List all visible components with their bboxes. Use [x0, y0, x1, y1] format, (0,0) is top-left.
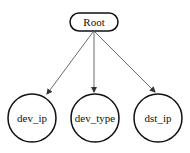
edge-root-dev-ip — [47, 32, 93, 94]
node-dev-type[interactable]: dev_type — [71, 94, 119, 142]
node-dev-ip[interactable]: dev_ip — [8, 94, 56, 142]
tree-diagram: Root dev_ip dev_type dst_ip — [0, 0, 190, 153]
edge-root-dst-ip — [95, 32, 155, 92]
node-dev-type-label: dev_type — [75, 112, 115, 124]
node-dev-ip-label: dev_ip — [17, 112, 47, 124]
root-label: Root — [83, 16, 104, 28]
node-dst-ip-label: dst_ip — [145, 112, 172, 124]
root-node[interactable]: Root — [70, 13, 118, 31]
node-dst-ip[interactable]: dst_ip — [134, 94, 182, 142]
